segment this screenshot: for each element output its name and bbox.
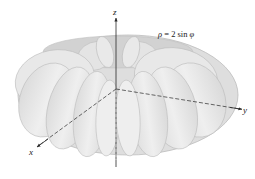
torus-diagram: z y x ρ = 2 sin φ [0,0,255,179]
y-axis-label: y [242,105,247,115]
equation-middle: = 2 sin [162,29,189,39]
x-axis-label: x [28,147,33,157]
torus-surface [9,34,238,159]
z-axis-label: z [112,7,117,17]
phi-symbol: φ [190,29,195,39]
equation-label: ρ = 2 sin φ [157,29,195,39]
